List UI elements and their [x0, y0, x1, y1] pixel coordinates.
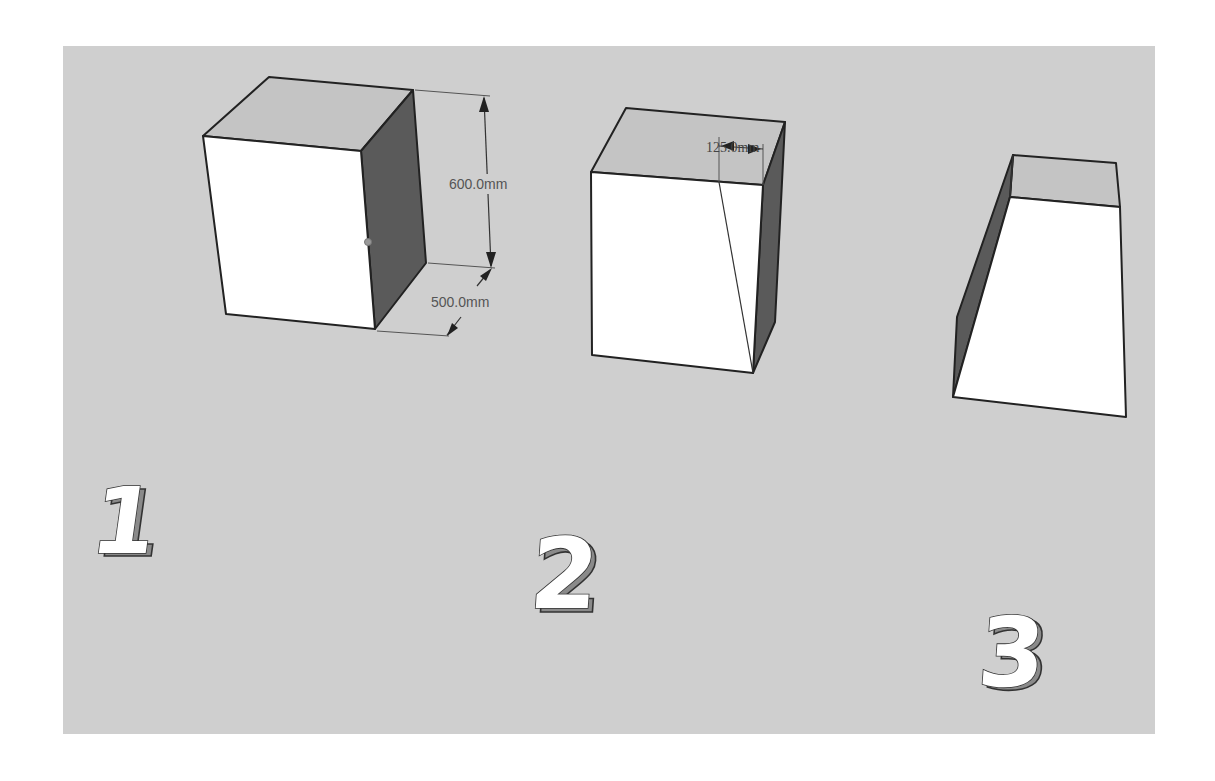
step-label-3: 3 3	[974, 597, 1054, 712]
diagram-canvas: 600.0mm 500.0mm 125.0mm	[0, 0, 1215, 781]
box-step-2: 125.0mm	[591, 108, 785, 373]
box1-front-face	[203, 136, 375, 329]
box2-front-face	[591, 172, 763, 373]
inference-point-icon	[365, 239, 372, 246]
dimension-label-500: 500.0mm	[431, 294, 489, 310]
dimension-label-125: 125.0mm	[706, 140, 759, 155]
svg-text:2: 2	[526, 517, 602, 631]
svg-text:3: 3	[974, 597, 1049, 709]
dimension-label-600: 600.0mm	[449, 176, 507, 192]
step-label-2: 2 2	[526, 517, 607, 635]
